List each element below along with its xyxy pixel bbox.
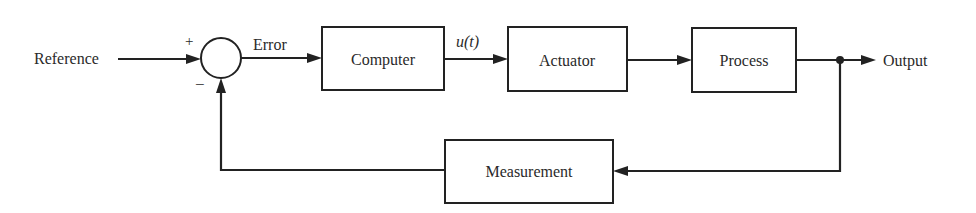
output-label: Output (883, 52, 928, 70)
measurement-label: Measurement (485, 163, 573, 180)
error-arrow (241, 53, 322, 63)
reference-label: Reference (34, 50, 99, 67)
summing-junction (201, 38, 241, 78)
feedback-return-arrow (216, 78, 445, 170)
error-label: Error (253, 36, 287, 53)
plus-sign: + (185, 33, 193, 49)
process-label: Process (720, 52, 769, 69)
control-signal-arrow (444, 54, 508, 64)
actuator-to-process-arrow (627, 55, 692, 65)
minus-sign: − (195, 75, 205, 94)
control-signal-label: u(t) (456, 33, 479, 51)
computer-label: Computer (351, 51, 416, 69)
actuator-label: Actuator (539, 52, 596, 69)
control-loop-diagram: Reference + − Error Computer u(t) Actuat… (0, 0, 976, 213)
reference-arrow (118, 54, 201, 64)
